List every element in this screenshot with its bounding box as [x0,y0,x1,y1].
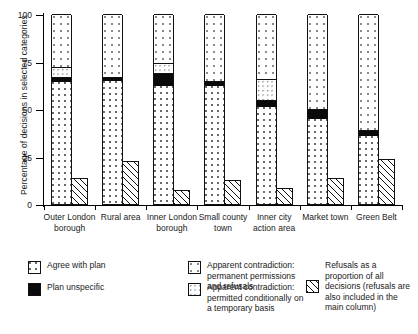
refusals-column[interactable] [71,178,88,205]
legend-swatch-temporary [188,283,201,296]
x-tick-mark [300,205,301,210]
bar-segment-permanent [257,100,276,108]
chart-root: Percentage of decisions in selected cate… [0,0,418,334]
x-axis-label: Inner London borough [144,212,200,233]
bar-segment-unspecific [359,14,378,130]
main-column[interactable] [102,15,123,205]
bar-group [153,15,193,205]
legend-label: Refusals as a proportion of all decision… [325,260,414,313]
refusals-column[interactable] [173,190,190,205]
bar-segment-agree [154,86,173,204]
x-tick-mark [249,205,250,210]
bar-segment-agree [52,82,71,204]
x-axis-label: Green Belt [348,212,404,223]
legend-item: Agree with plan [28,260,178,274]
legend-label: Agree with plan [47,260,106,271]
legend-swatch-agree [28,261,41,274]
bar-group [307,15,347,205]
bar-group [102,15,142,205]
y-tick-label: 25 [2,153,32,163]
y-tick-mark [36,205,43,206]
refusals-column[interactable] [224,180,241,205]
x-axis-label: Outer London borough [42,212,98,233]
main-column[interactable] [204,15,225,205]
bar-segment-permanent [308,109,327,119]
x-axis-label: Market town [297,212,353,223]
bar-segment-unspecific [52,14,71,67]
y-tick-label: 100 [2,10,32,20]
y-tick-mark [36,110,43,111]
bar-segment-permanent [52,77,71,83]
y-tick-mark [36,158,43,159]
main-column[interactable] [256,15,277,205]
x-axis-line [43,205,403,206]
bar-group [358,15,398,205]
bar-segment-permanent [359,130,378,136]
legend-label: Plan unspecific [47,282,104,293]
bar-segment-temporary [52,67,71,77]
legend-item: Apparent contradiction: permitted condit… [188,282,308,314]
legend-item: Refusals as a proportion of all decision… [306,260,414,313]
y-tick-label: 75 [2,58,32,68]
bar-segment-agree [257,107,276,204]
bar-segment-permanent [154,73,173,86]
main-column[interactable] [153,15,174,205]
legend-swatch-permanent [188,261,201,274]
refusals-column[interactable] [378,159,395,205]
x-tick-mark [351,205,352,210]
bar-segment-unspecific [154,14,173,63]
bar-segment-agree [308,119,327,205]
bar-segment-unspecific [205,14,224,81]
refusals-column[interactable] [327,178,344,205]
refusals-column[interactable] [122,161,139,205]
y-tick-mark [36,63,43,64]
refusals-column[interactable] [276,188,293,205]
y-tick-label: 0 [2,200,32,210]
main-column[interactable] [307,15,328,205]
bar-segment-temporary [257,79,276,100]
main-column[interactable] [358,15,379,205]
bar-segment-permanent [103,77,122,81]
bar-segment-agree [103,81,122,205]
plot-area [44,15,402,205]
bar-group [256,15,296,205]
y-tick-mark [36,15,43,16]
legend-swatch-unspecific [28,283,41,296]
bar-segment-unspecific [308,14,327,109]
x-tick-mark [95,205,96,210]
x-tick-mark [402,205,403,210]
legend-swatch-refusals [306,280,319,293]
bar-segment-temporary [154,63,173,73]
bar-segment-permanent [205,81,224,87]
bar-segment-agree [359,136,378,204]
x-tick-mark [146,205,147,210]
x-axis-label: Rural area [93,212,149,223]
chart-legend: Agree with planApparent contradiction: p… [0,258,418,334]
legend-item: Plan unspecific [28,282,178,296]
bar-group [204,15,244,205]
bar-segment-agree [205,86,224,204]
x-tick-mark [44,205,45,210]
legend-label: Apparent contradiction: permitted condit… [207,282,308,314]
x-axis-label: Inner city action area [246,212,302,233]
bar-segment-unspecific [103,14,122,77]
main-column[interactable] [51,15,72,205]
y-tick-label: 50 [2,105,32,115]
bar-group [51,15,91,205]
bar-segment-unspecific [257,14,276,79]
x-axis-label: Small county town [195,212,251,233]
x-tick-mark [197,205,198,210]
